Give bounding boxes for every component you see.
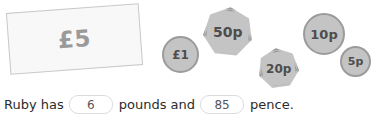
coin-5p: 5p [340,46,371,77]
sentence-lead-text: Ruby has [4,97,69,112]
coin-50p: 50p [201,5,256,60]
coin-label: 10p [310,28,337,41]
coin-label: 20p [266,63,291,75]
coin-10p: 10p [303,13,345,55]
coin-label: 5p [348,56,364,67]
banknote-5-pounds: £5 [6,3,143,75]
money-illustration: £5 £1 50p 20p 10p 5p [0,0,374,92]
coin-1-pound: £1 [162,36,199,73]
coin-20p: 20p [255,45,301,91]
coin-label: £1 [172,49,189,61]
sentence-middle-text: pounds and [113,97,200,112]
question-sentence: Ruby has 6 pounds and 85 pence. [4,95,299,114]
coin-label: 50p [213,25,243,39]
pence-answer-input[interactable]: 85 [200,95,244,114]
pounds-answer-input[interactable]: 6 [69,95,113,114]
banknote-label: £5 [57,26,92,51]
sentence-trailing-text: pence. [244,97,299,112]
